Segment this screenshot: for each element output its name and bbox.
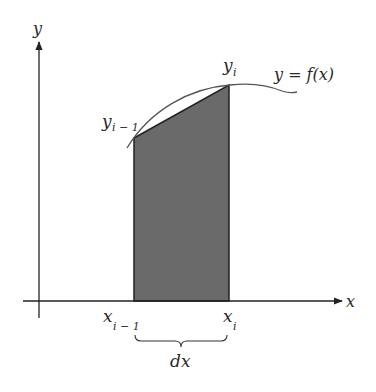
left-x-sub: i − 1 [113, 320, 140, 333]
trapezoid-area [134, 85, 229, 301]
right-y-sub: i [233, 66, 237, 79]
left-y-label: y [101, 111, 112, 131]
left-x-label: x [103, 306, 113, 326]
curve-label: y = f(x) [273, 65, 334, 84]
dx-brace [135, 335, 227, 347]
y-axis-label: y [32, 19, 43, 38]
trapezoid-diagram: y x y = f(x) y i − 1 y i x i − 1 x i dx [0, 0, 376, 392]
dx-label: dx [170, 351, 191, 371]
right-x-sub: i [233, 320, 237, 333]
x-axis-label: x [346, 292, 355, 311]
left-y-sub: i − 1 [112, 121, 139, 134]
right-x-label: x [223, 306, 233, 326]
right-y-label: y [222, 55, 233, 75]
